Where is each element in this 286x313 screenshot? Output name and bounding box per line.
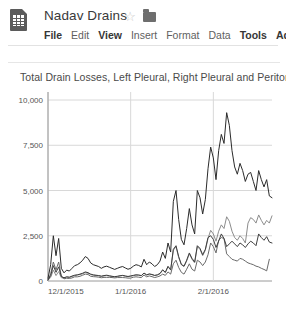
spreadsheet-app-window: Nadav Drains ☆ File Edit View Insert For… (0, 0, 286, 313)
menu-item-data[interactable]: Data (208, 28, 230, 42)
y-axis-tick-label: 10,000 (19, 96, 44, 105)
x-axis-tick-label: 1/1/2016 (115, 287, 147, 296)
document-title[interactable]: Nadav Drains (44, 8, 127, 23)
y-axis-tick-label: 2,500 (23, 232, 44, 241)
chart-series-line (48, 234, 272, 280)
y-axis-tick-label: 5,000 (23, 187, 44, 196)
x-axis-tick-label: 2/1/2016 (198, 287, 230, 296)
menu-bar: File Edit View Insert Format Data Tools … (44, 28, 286, 42)
y-axis-tick-label: 7,500 (23, 141, 44, 150)
app-header: Nadav Drains ☆ File Edit View Insert For… (0, 0, 286, 45)
star-icon[interactable]: ☆ (124, 11, 136, 23)
chart-svg: 02,5005,0007,50010,00012/1/20151/1/20162… (8, 62, 280, 308)
chart-series-line (48, 215, 272, 280)
menu-item-format[interactable]: Format (166, 28, 199, 42)
folder-icon[interactable] (143, 12, 156, 22)
chart-card[interactable]: Total Drain Losses, Left Pleural, Right … (8, 62, 280, 308)
spreadsheet-icon-grid (13, 15, 24, 26)
y-axis-tick-label: 0 (39, 277, 44, 286)
menu-item-edit[interactable]: Edit (71, 28, 89, 42)
line-chart[interactable]: 02,5005,0007,50010,00012/1/20151/1/20162… (8, 62, 280, 308)
x-axis-tick-label: 12/1/2015 (48, 287, 84, 296)
menu-item-insert[interactable]: Insert (131, 28, 157, 42)
menu-item-add-ons[interactable]: Add-ons (276, 28, 286, 42)
menu-item-view[interactable]: View (98, 28, 122, 42)
menu-item-file[interactable]: File (44, 28, 62, 42)
spreadsheet-icon (10, 9, 27, 31)
chart-series-line (48, 113, 272, 279)
header-divider (8, 45, 278, 46)
menu-item-tools[interactable]: Tools (240, 28, 267, 42)
